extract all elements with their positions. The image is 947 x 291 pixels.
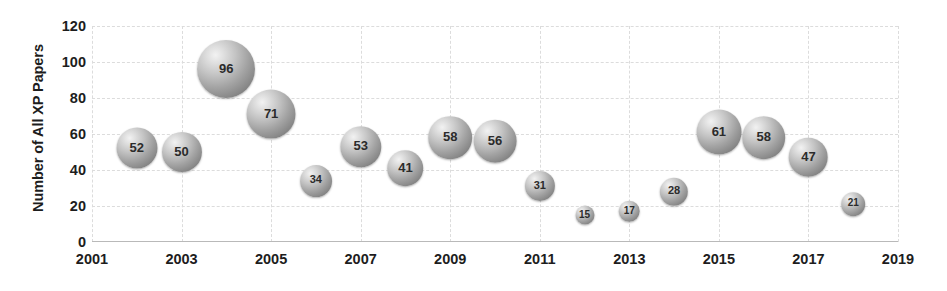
bubble-point[interactable]: 31 [525,171,555,201]
gridline-horizontal [92,98,898,99]
x-tick-label: 2009 [420,252,480,267]
bubble-point[interactable]: 41 [388,150,424,186]
bubble-point[interactable]: 56 [474,120,517,163]
y-tick-label: 100 [42,55,86,70]
bubble-point[interactable]: 21 [841,192,865,216]
bubble-value-label: 17 [624,205,635,215]
y-tick-label: 20 [42,199,86,214]
y-tick-label: 80 [42,91,86,106]
bubble-point[interactable]: 53 [340,126,381,167]
gridline-horizontal [92,26,898,27]
bubble-value-label: 52 [130,141,144,154]
bubble-value-label: 21 [848,198,859,208]
x-tick-label: 2019 [868,252,928,267]
gridline-vertical [540,26,541,242]
bubble-point[interactable]: 61 [696,110,741,155]
y-tick-label: 60 [42,127,86,142]
bubble-value-label: 31 [534,180,546,191]
bubble-point[interactable]: 52 [116,128,157,169]
bubble-point[interactable]: 96 [197,40,255,98]
bubble-value-label: 41 [398,161,412,174]
bubble-point[interactable]: 15 [575,206,594,225]
plot-area: 5250967134534158563115172861584721 [92,26,898,242]
x-axis-line [92,241,898,242]
bubble-value-label: 58 [443,130,457,143]
bubble-point[interactable]: 34 [300,165,332,197]
x-tick-label: 2011 [510,252,570,267]
x-tick-label: 2003 [152,252,212,267]
bubble-value-label: 96 [219,62,233,75]
bubble-value-label: 47 [801,150,815,163]
bubble-value-label: 71 [264,107,278,120]
bubble-point[interactable]: 71 [247,90,296,139]
y-tick-label: 40 [42,163,86,178]
bubble-value-label: 56 [488,134,502,147]
bubble-value-label: 50 [174,144,188,157]
x-tick-label: 2001 [62,252,122,267]
bubble-point[interactable]: 47 [789,138,828,177]
bubble-point[interactable]: 58 [428,116,472,160]
x-tick-label: 2007 [331,252,391,267]
bubble-value-label: 58 [756,130,770,143]
gridline-horizontal [92,206,898,207]
gridline-horizontal [92,170,898,171]
bubble-point[interactable]: 58 [742,116,786,160]
bubble-value-label: 34 [310,174,322,185]
bubble-value-label: 61 [712,125,726,138]
bubble-chart: Number of All XP Papers 020406080100120 … [0,0,947,291]
x-tick-label: 2005 [241,252,301,267]
x-tick-label: 2013 [599,252,659,267]
bubble-value-label: 15 [579,209,590,219]
bubble-point[interactable]: 28 [660,177,688,205]
y-tick-label: 120 [42,19,86,34]
x-tick-label: 2015 [689,252,749,267]
bubble-point[interactable]: 50 [162,132,202,172]
x-tick-label: 2017 [778,252,838,267]
gridline-vertical [808,26,809,242]
y-tick-label: 0 [42,235,86,250]
bubble-value-label: 28 [668,185,680,196]
y-axis-tick-labels: 020406080100120 [38,0,86,291]
gridline-vertical [898,26,899,242]
bubble-point[interactable]: 17 [619,201,640,222]
gridline-vertical [92,26,93,242]
bubble-value-label: 53 [353,139,367,152]
